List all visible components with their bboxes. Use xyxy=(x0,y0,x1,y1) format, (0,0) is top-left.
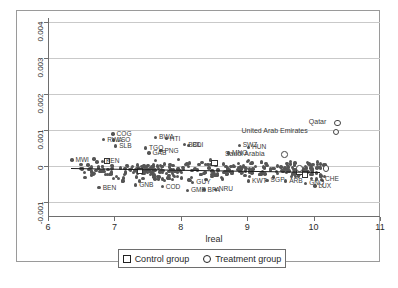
x-axis-tick-label: 10 xyxy=(299,222,329,232)
data-point xyxy=(114,144,117,147)
data-point xyxy=(147,151,150,154)
legend-label-treatment: Treatment group xyxy=(215,254,281,264)
x-axis-tick-label: 11 xyxy=(365,222,395,232)
data-point xyxy=(83,176,86,179)
point-label: SGP xyxy=(271,176,285,183)
data-point xyxy=(136,163,139,166)
data-point xyxy=(134,183,137,186)
y-axis-tick xyxy=(44,22,48,23)
data-point xyxy=(260,161,263,164)
point-label: SLB xyxy=(119,142,131,149)
x-axis-tick xyxy=(380,217,381,221)
y-axis-tick xyxy=(44,166,48,167)
point-label: GUY xyxy=(196,178,210,185)
data-point xyxy=(165,172,168,175)
data-point xyxy=(70,158,73,161)
treatment-group-marker xyxy=(281,151,288,158)
data-point xyxy=(95,160,98,163)
point-label: KWT xyxy=(252,177,267,184)
data-point xyxy=(238,144,241,147)
data-point xyxy=(154,159,157,162)
data-point xyxy=(213,174,216,177)
point-label: KEN xyxy=(106,157,120,164)
data-point xyxy=(161,185,164,188)
point-label: GMB xyxy=(191,186,206,193)
data-point xyxy=(259,172,262,175)
scatter-plot: 0.0040.0030.0020.0010-0.001 67891011 COG… xyxy=(0,0,398,288)
data-point xyxy=(173,175,176,178)
data-point xyxy=(117,177,120,180)
data-point xyxy=(237,162,240,165)
control-group-marker xyxy=(211,160,218,167)
data-point xyxy=(135,175,138,178)
x-axis-title: lreal xyxy=(48,234,380,244)
point-label: BEN xyxy=(103,184,117,191)
data-point xyxy=(250,161,253,164)
data-point xyxy=(177,158,180,161)
data-point xyxy=(167,177,170,180)
data-point xyxy=(171,178,174,181)
gridline xyxy=(48,22,380,23)
data-point xyxy=(152,175,155,178)
point-label: COD xyxy=(166,183,181,190)
data-point xyxy=(144,146,147,149)
data-point xyxy=(132,171,135,174)
data-point xyxy=(125,164,128,167)
data-point xyxy=(222,162,225,165)
y-axis-tick xyxy=(44,94,48,95)
point-label: BDI xyxy=(192,141,203,148)
data-point xyxy=(220,176,223,179)
x-axis-tick-label: 7 xyxy=(99,222,129,232)
x-axis-tick-label: 8 xyxy=(166,222,196,232)
data-point xyxy=(102,138,105,141)
data-point xyxy=(171,164,174,167)
data-point xyxy=(304,182,307,185)
data-point xyxy=(180,176,183,179)
data-point xyxy=(154,136,157,139)
x-axis-tick-label: 6 xyxy=(33,222,63,232)
data-point xyxy=(319,162,322,165)
data-point xyxy=(79,163,82,166)
data-point xyxy=(191,181,194,184)
data-point xyxy=(92,172,95,175)
treatment-group-marker xyxy=(323,165,330,172)
data-point xyxy=(263,172,266,175)
legend-item-control[interactable]: Control group xyxy=(123,254,190,264)
y-axis-tick xyxy=(44,202,48,203)
data-point xyxy=(202,172,205,175)
data-point xyxy=(86,163,89,166)
point-label: GNQ xyxy=(309,179,324,186)
point-label: MWI xyxy=(75,156,89,163)
y-axis-tick xyxy=(44,130,48,131)
data-point xyxy=(157,177,160,180)
data-point xyxy=(141,177,144,180)
y-axis-tick xyxy=(44,58,48,59)
data-point xyxy=(121,179,124,182)
point-label: GNB xyxy=(139,181,153,188)
legend-item-treatment[interactable]: Treatment group xyxy=(203,254,281,264)
x-axis-line xyxy=(48,216,380,217)
data-point xyxy=(185,162,188,165)
data-point xyxy=(112,177,115,180)
data-point xyxy=(248,175,251,178)
gridline xyxy=(48,202,380,203)
point-label: ARB xyxy=(289,177,303,184)
x-axis-tick xyxy=(181,217,182,221)
data-point xyxy=(124,170,127,173)
gridline xyxy=(48,58,380,59)
data-point xyxy=(293,161,296,164)
data-point xyxy=(310,173,313,176)
data-point xyxy=(83,171,86,174)
data-point xyxy=(276,164,279,167)
data-point xyxy=(110,170,113,173)
chart-legend: Control group Treatment group xyxy=(118,249,286,268)
point-label: United Arab Emirates xyxy=(242,127,308,134)
open-circle-icon xyxy=(203,255,211,263)
data-point xyxy=(176,175,179,178)
data-point xyxy=(309,166,312,169)
data-point xyxy=(92,157,95,160)
x-axis-tick-label: 9 xyxy=(232,222,262,232)
data-point xyxy=(315,166,318,169)
gridline xyxy=(48,130,380,131)
data-point xyxy=(319,166,322,169)
